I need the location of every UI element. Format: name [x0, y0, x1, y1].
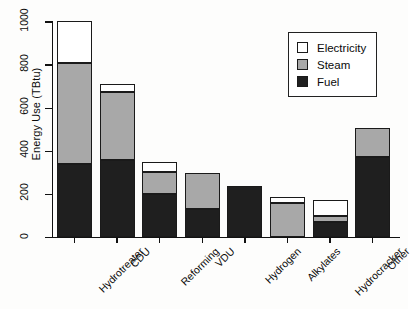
bar-segment-fuel [100, 160, 135, 237]
y-axis-tick [45, 151, 52, 152]
x-axis-tick [287, 238, 288, 243]
x-axis-label-reforming: Reforming [178, 245, 221, 288]
x-axis-tick [116, 238, 117, 243]
x-axis-label-alkylates: Alkylates [304, 245, 342, 283]
x-axis-tick [372, 238, 373, 243]
x-axis-tick [202, 238, 203, 243]
y-axis-tick [45, 108, 52, 109]
legend-item-steam: Steam [297, 56, 366, 73]
y-axis-tick-label: 0 [18, 219, 30, 253]
bar-segment-electricity [313, 200, 348, 215]
x-axis-label-other: Other [384, 245, 411, 272]
legend: ElectricitySteamFuel [288, 32, 377, 97]
y-axis-tick-label: 1000 [18, 3, 30, 37]
legend-label-steam: Steam [317, 59, 350, 71]
legend-item-fuel: Fuel [297, 73, 366, 90]
y-axis-tick-label: 400 [18, 132, 30, 166]
bar-reforming [142, 0, 177, 238]
x-axis-tick [244, 238, 245, 243]
x-axis-tick [159, 238, 160, 243]
y-axis-tick-label: 200 [18, 175, 30, 209]
bar-vdu [185, 0, 220, 238]
y-axis-tick [45, 64, 52, 65]
bar-hydrotreater [57, 0, 92, 238]
y-axis-line [52, 21, 53, 238]
x-axis-tick [74, 238, 75, 243]
bar-segment-fuel [227, 186, 262, 238]
legend-swatch-steam [297, 59, 308, 70]
y-axis-tick [45, 21, 52, 22]
bar-segment-electricity [142, 162, 177, 172]
bar-segment-fuel [142, 194, 177, 237]
bar-segment-electricity [57, 21, 92, 63]
bar-segment-electricity [100, 84, 135, 92]
legend-swatch-fuel [297, 76, 308, 87]
bar-segment-steam [185, 173, 220, 209]
y-axis-tick-label: 600 [18, 89, 30, 123]
bar-hydrogen [227, 0, 262, 238]
bar-segment-fuel [185, 209, 220, 237]
bar-segment-steam [313, 216, 348, 223]
bar-segment-steam [57, 63, 92, 164]
legend-swatch-electricity [297, 42, 308, 53]
y-axis-tick [45, 194, 52, 195]
bar-cdu [100, 0, 135, 238]
legend-label-fuel: Fuel [317, 76, 339, 88]
bar-segment-electricity [270, 197, 305, 203]
legend-label-electricity: Electricity [317, 42, 366, 54]
y-axis-title: Energy Use (TBtu) [30, 14, 42, 214]
y-axis-tick [45, 237, 52, 238]
bar-segment-fuel [355, 157, 390, 237]
bar-segment-fuel [313, 222, 348, 237]
bar-segment-steam [355, 128, 390, 157]
bar-segment-steam [270, 203, 305, 237]
bar-segment-steam [142, 172, 177, 194]
x-axis-label-hydrogen: Hydrogen [262, 245, 303, 286]
x-axis-tick [329, 238, 330, 243]
legend-item-electricity: Electricity [297, 39, 366, 56]
bar-segment-fuel [57, 164, 92, 237]
bar-segment-steam [100, 92, 135, 160]
y-axis-tick-label: 800 [18, 46, 30, 80]
